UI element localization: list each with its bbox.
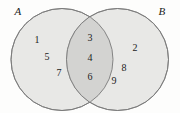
venn-element: 5 [45, 52, 50, 62]
venn-element: 6 [88, 72, 93, 82]
venn-element: 8 [122, 63, 127, 73]
venn-element: 1 [35, 35, 40, 45]
venn-element: 7 [57, 68, 62, 78]
set-a-label: A [15, 6, 22, 17]
set-b-label: B [159, 6, 166, 17]
venn-element: 9 [112, 76, 117, 86]
venn-diagram-figure: A B 157 346 289 [0, 0, 180, 113]
venn-element: 4 [88, 53, 93, 63]
venn-element: 3 [88, 33, 93, 43]
venn-element: 2 [133, 43, 138, 53]
